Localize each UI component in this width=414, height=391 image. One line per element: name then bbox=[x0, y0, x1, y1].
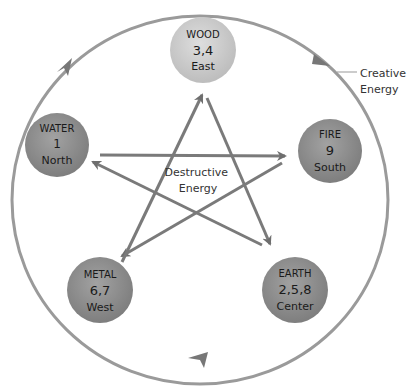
svg-text:3,4: 3,4 bbox=[193, 43, 214, 58]
five-elements-diagram: Creative Energy Destructive Energy WOOD … bbox=[0, 0, 414, 391]
element-water: WATER 1 North bbox=[25, 113, 89, 177]
svg-text:9: 9 bbox=[326, 143, 334, 158]
element-metal: METAL 6,7 West bbox=[67, 257, 133, 323]
svg-text:METAL: METAL bbox=[84, 269, 117, 280]
svg-text:WOOD: WOOD bbox=[186, 29, 220, 40]
svg-text:West: West bbox=[86, 301, 114, 314]
element-earth: EARTH 2,5,8 Center bbox=[262, 257, 328, 323]
svg-text:Center: Center bbox=[276, 300, 314, 313]
svg-text:North: North bbox=[42, 154, 73, 167]
svg-text:East: East bbox=[191, 60, 215, 73]
creative-energy-label: Creative Energy bbox=[360, 67, 410, 96]
svg-text:EARTH: EARTH bbox=[278, 268, 311, 279]
element-fire: FIRE 9 South bbox=[298, 119, 362, 183]
svg-text:1: 1 bbox=[53, 137, 61, 151]
svg-text:WATER: WATER bbox=[40, 123, 75, 134]
svg-text:6,7: 6,7 bbox=[90, 283, 111, 298]
svg-text:South: South bbox=[314, 161, 346, 174]
svg-text:FIRE: FIRE bbox=[319, 129, 341, 140]
svg-text:2,5,8: 2,5,8 bbox=[278, 282, 311, 297]
element-wood: WOOD 3,4 East bbox=[170, 17, 236, 83]
destructive-energy-label: Destructive Energy bbox=[165, 166, 232, 195]
